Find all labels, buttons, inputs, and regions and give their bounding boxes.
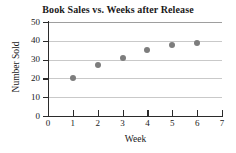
x-tick-6 <box>197 110 198 116</box>
plot-area <box>48 22 222 116</box>
y-tick-20 <box>43 78 48 79</box>
chart-title: Book Sales vs. Weeks after Release <box>0 4 236 15</box>
x-tick-7 <box>222 110 223 116</box>
y-axis-line <box>48 21 49 117</box>
y-tick-50 <box>43 22 48 23</box>
y-tick-40 <box>43 41 48 42</box>
scatter-chart: Book Sales vs. Weeks after Release 01020… <box>0 0 236 153</box>
x-tick-1 <box>73 110 74 116</box>
gridline-y-10 <box>48 97 222 98</box>
x-tick-label: 2 <box>88 119 108 128</box>
data-point <box>95 62 101 68</box>
x-tick-5 <box>172 110 173 116</box>
x-tick-label: 4 <box>137 119 157 128</box>
x-tick-label: 1 <box>63 119 83 128</box>
x-axis-title: Week <box>48 134 223 144</box>
data-point <box>169 42 175 48</box>
x-tick-2 <box>98 110 99 116</box>
x-tick-3 <box>123 110 124 116</box>
x-tick-label: 0 <box>38 119 58 128</box>
x-tick-label: 5 <box>162 119 182 128</box>
data-point <box>144 47 150 53</box>
x-tick-label: 6 <box>187 119 207 128</box>
y-tick-10 <box>43 97 48 98</box>
data-point <box>70 75 76 81</box>
data-point <box>120 55 126 61</box>
gridline-y-30 <box>48 60 222 61</box>
y-axis-title: Number Sold <box>11 20 21 114</box>
x-tick-4 <box>147 110 148 116</box>
x-tick-label: 7 <box>212 119 232 128</box>
gridline-y-50 <box>48 22 222 23</box>
y-tick-30 <box>43 60 48 61</box>
y-tick-0 <box>43 116 48 117</box>
x-tick-label: 3 <box>113 119 133 128</box>
data-point <box>194 40 200 46</box>
